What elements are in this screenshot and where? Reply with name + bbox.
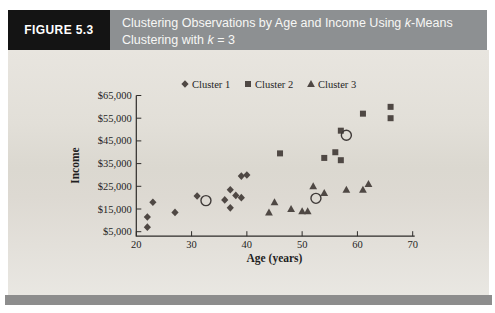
data-point-cluster-3: [265, 208, 273, 215]
y-tick-label: $65,000: [98, 90, 132, 101]
data-point-cluster-1: [171, 209, 178, 217]
data-point-cluster-3: [287, 205, 295, 212]
data-point-cluster-3: [320, 189, 328, 196]
data-point-cluster-1: [227, 186, 234, 194]
y-axis-title: Income: [69, 147, 81, 183]
y-tick-label: $25,000: [98, 181, 132, 192]
data-point-cluster-1: [243, 171, 250, 179]
x-axis-title: Age (years): [247, 252, 303, 265]
data-point-cluster-1: [221, 196, 228, 204]
x-tick-label: 60: [352, 239, 363, 250]
legend-marker-square: [245, 81, 251, 87]
legend-label: Cluster 2: [255, 79, 293, 90]
x-tick-label: 40: [242, 239, 253, 250]
centroid-marker: [201, 196, 211, 206]
legend-label: Cluster 3: [318, 79, 356, 90]
data-point-cluster-1: [149, 198, 156, 206]
footer-band: [5, 295, 492, 305]
data-point-cluster-2: [332, 149, 338, 155]
data-point-cluster-2: [321, 155, 327, 161]
chart-axes: [136, 96, 414, 237]
data-point-cluster-3: [304, 207, 312, 214]
y-tick-label: $45,000: [98, 135, 132, 146]
y-tick-label: $5,000: [103, 226, 132, 237]
y-tick-label: $35,000: [98, 158, 132, 169]
x-tick-label: 20: [131, 239, 142, 250]
data-point-cluster-1: [238, 172, 245, 180]
data-point-cluster-1: [227, 204, 234, 212]
data-point-cluster-2: [388, 104, 394, 110]
centroid-marker: [341, 130, 351, 140]
data-point-cluster-3: [365, 180, 373, 187]
data-point-cluster-2: [360, 111, 366, 117]
x-tick-label: 50: [297, 239, 308, 250]
data-point-cluster-2: [338, 157, 344, 163]
x-tick-label: 30: [186, 239, 197, 250]
scatter-chart: $5,000$15,000$25,000$35,000$45,000$55,00…: [0, 0, 495, 313]
y-tick-label: $15,000: [98, 204, 132, 215]
centroid-marker: [311, 193, 321, 203]
legend-label: Cluster 1: [192, 79, 230, 90]
data-point-cluster-2: [388, 115, 394, 121]
data-point-cluster-1: [144, 213, 151, 221]
data-point-cluster-1: [194, 192, 201, 200]
data-point-cluster-3: [309, 182, 317, 189]
data-point-cluster-1: [144, 223, 151, 231]
data-point-cluster-2: [277, 150, 283, 156]
data-point-cluster-3: [342, 186, 350, 193]
legend-marker-triangle: [307, 80, 315, 87]
y-tick-label: $55,000: [98, 113, 132, 124]
legend-marker-diamond: [181, 80, 188, 88]
data-point-cluster-3: [271, 198, 279, 205]
x-tick-label: 70: [407, 239, 418, 250]
